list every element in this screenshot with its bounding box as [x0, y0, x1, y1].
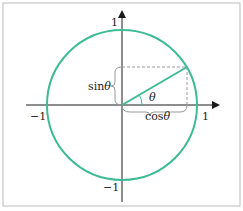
theta-arc [139, 95, 142, 105]
y-axis-label-neg1: −1 [103, 181, 119, 194]
theta-angle-label: θ [149, 91, 156, 104]
cos-text: cos [145, 110, 164, 123]
sin-theta-label: sinθ [88, 80, 111, 93]
sin-text: sin [88, 80, 104, 93]
unit-circle-diagram: 1 −1 −1 1 sinθ cosθ θ [0, 0, 243, 211]
x-axis-label-neg1: −1 [30, 110, 46, 123]
cos-theta-label: cosθ [145, 110, 170, 123]
cos-theta-symbol: θ [163, 110, 170, 123]
x-axis-label-1: 1 [202, 110, 209, 123]
sin-theta-symbol: θ [104, 80, 111, 93]
sin-brace [111, 67, 122, 105]
y-axis-label-1: 1 [111, 16, 118, 29]
